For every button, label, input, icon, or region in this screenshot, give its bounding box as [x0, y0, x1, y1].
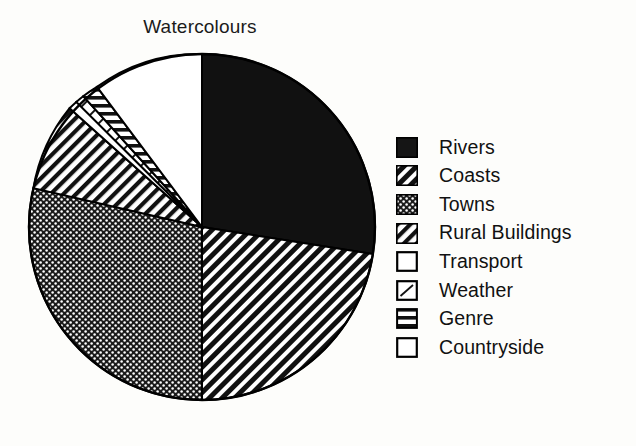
legend-label: Transport: [439, 252, 523, 272]
pie-slice-coasts[interactable]: [202, 227, 373, 400]
legend-item-transport[interactable]: Transport: [396, 247, 636, 276]
chart-page: Watercolours: [0, 0, 636, 446]
swatch-solid-white-icon: [396, 251, 418, 272]
legend-label: Towns: [439, 195, 495, 215]
legend-item-countryside[interactable]: Countryside: [396, 333, 636, 362]
swatch-solid-white-icon: [396, 337, 418, 358]
legend-label: Rivers: [439, 138, 495, 158]
legend-label: Rural Buildings: [439, 223, 572, 243]
swatch-horizontal-lines-icon: [396, 308, 418, 329]
legend-label: Countryside: [439, 338, 544, 358]
legend-item-coasts[interactable]: Coasts: [396, 162, 636, 191]
legend: Rivers Coasts Towns Rural Buildings Tran: [396, 133, 636, 362]
pie-chart-svg: [0, 0, 400, 446]
swatch-dotted-grid-icon: [396, 194, 418, 215]
swatch-solid-black-icon: [396, 137, 418, 158]
legend-label: Weather: [439, 281, 513, 301]
legend-label: Coasts: [439, 166, 500, 186]
pie-chart: [0, 0, 400, 446]
legend-item-rivers[interactable]: Rivers: [396, 133, 636, 162]
swatch-diagonal-hatch-black-icon: [396, 223, 418, 244]
swatch-thin-diagonal-icon: [396, 280, 418, 301]
pie-slices: [29, 54, 375, 400]
legend-item-genre[interactable]: Genre: [396, 305, 636, 334]
pie-slice-rivers[interactable]: [202, 54, 375, 254]
legend-item-towns[interactable]: Towns: [396, 190, 636, 219]
swatch-diagonal-hatch-white-icon: [396, 165, 418, 186]
legend-item-weather[interactable]: Weather: [396, 276, 636, 305]
legend-label: Genre: [439, 309, 494, 329]
legend-item-rural-buildings[interactable]: Rural Buildings: [396, 219, 636, 248]
